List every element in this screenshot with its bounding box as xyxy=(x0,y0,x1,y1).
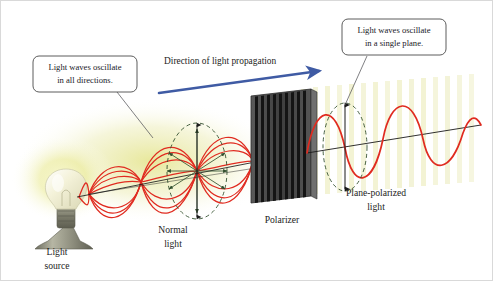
normal-light-label-line2: light xyxy=(164,238,182,249)
polarized-callout: Light waves oscillate in a single plane. xyxy=(342,19,446,105)
normal-light-label-line1: Normal xyxy=(158,224,188,235)
polarizer-label: Polarizer xyxy=(265,214,300,225)
unpolarized-callout-line2: in all directions. xyxy=(57,75,113,85)
polarized-sine-curve xyxy=(307,106,481,178)
unpolarized-callout-line1: Light waves oscillate xyxy=(48,62,121,72)
polarized-callout-line2: in a single plane. xyxy=(365,38,423,48)
polarizer-screen xyxy=(251,89,317,203)
figure-canvas: Direction of light propagation Light wav… xyxy=(0,0,493,281)
light-polarization-diagram: Direction of light propagation Light wav… xyxy=(1,1,493,281)
bulb-highlight xyxy=(52,174,64,192)
plane-polarized-label-line2: light xyxy=(367,201,385,212)
light-source-label-line2: source xyxy=(44,260,69,271)
plane-polarized-label-line1: Plane-polarized xyxy=(346,187,406,198)
polarized-axis xyxy=(307,125,481,153)
polarizer-slits xyxy=(255,91,306,203)
plane-polarized-wave xyxy=(307,106,481,178)
propagation-arrow xyxy=(159,71,319,93)
light-source-label-line1: Light xyxy=(47,246,68,257)
propagation-label: Direction of light propagation xyxy=(164,56,277,66)
polarized-callout-line1: Light waves oscillate xyxy=(357,25,430,35)
polarizer-edge xyxy=(311,89,317,199)
propagation-arrow-group: Direction of light propagation xyxy=(159,56,319,93)
polarized-glow-stripes xyxy=(301,74,474,194)
